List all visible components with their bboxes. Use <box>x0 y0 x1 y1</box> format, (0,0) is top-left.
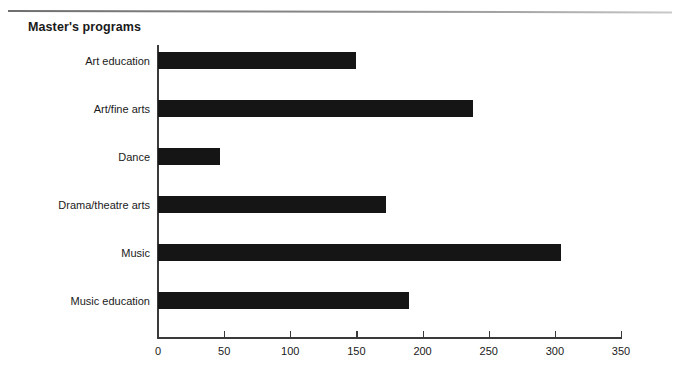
x-axis-line <box>157 337 622 339</box>
x-axis-tick-label: 0 <box>138 345 178 357</box>
x-axis-tick <box>621 331 622 338</box>
bar <box>158 244 561 261</box>
bar <box>158 196 386 213</box>
category-label: Art/fine arts <box>94 102 150 116</box>
x-axis-tick-label: 250 <box>469 345 509 357</box>
x-axis-tick <box>555 331 556 338</box>
x-axis-tick-label: 200 <box>403 345 443 357</box>
chart-page: Master's programs Art educationArt/fine … <box>0 0 679 385</box>
x-axis-tick <box>290 331 291 338</box>
category-label: Dance <box>118 150 150 164</box>
bar <box>158 292 409 309</box>
x-axis-tick-label: 350 <box>601 345 641 357</box>
x-axis-tick-label: 100 <box>270 345 310 357</box>
x-axis-tick <box>489 331 490 338</box>
x-axis-tick <box>356 331 357 338</box>
x-axis-tick <box>423 331 424 338</box>
x-axis-tick-label: 300 <box>535 345 575 357</box>
bar <box>158 100 473 117</box>
x-axis-tick-label: 150 <box>336 345 376 357</box>
bar <box>158 52 356 69</box>
x-axis-tick <box>224 331 225 338</box>
x-axis-tick <box>158 331 159 338</box>
category-label: Music education <box>71 294 151 308</box>
bar-chart-plot: Art educationArt/fine artsDanceDrama/the… <box>0 0 679 385</box>
bar <box>158 148 220 165</box>
x-axis-tick-label: 50 <box>204 345 244 357</box>
category-label: Drama/theatre arts <box>58 198 150 212</box>
category-label: Art education <box>85 54 150 68</box>
category-label: Music <box>121 246 150 260</box>
